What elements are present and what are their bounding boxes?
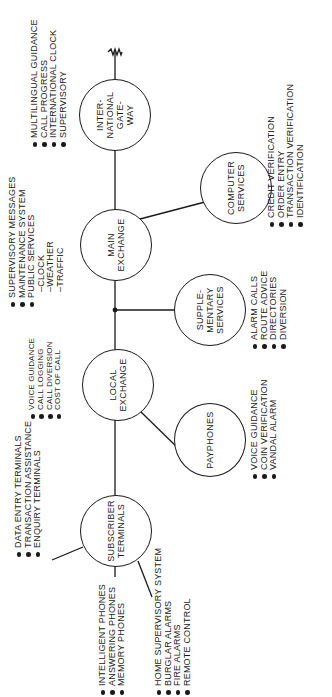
- node-international-gateway: INTER- NATIONAL GATE- WAY: [79, 79, 151, 151]
- node-computer-services: COMPUTER SERVICES: [200, 152, 272, 224]
- list-supplementary: ALARM CALLS ROUTE ADVICE DIRECTORIES DIV…: [250, 271, 288, 349]
- list-main-exchange: SUPERVISORY MESSAGES MAINTENANCE SYSTEM …: [8, 176, 66, 307]
- list-home-systems: HOME SUPERVISORY SYSTEM BURGLAR ALARMS F…: [154, 548, 192, 695]
- link-terminals: [52, 547, 83, 560]
- node-supplementary-services: SUPPLE- MENTARY SERVICES: [174, 274, 246, 346]
- list-item: MEMORY PHONES: [117, 584, 127, 695]
- list-item: SUPERVISORY: [59, 19, 69, 147]
- list-item: ENQUIRY TERMINALS: [33, 421, 43, 557]
- list-terminals: DATA ENTRY TERMINALS TRANSACTION ASSISTA…: [14, 421, 43, 557]
- node-local-exchange: LOCAL EXCHANGE: [82, 349, 154, 421]
- junction-dot: [113, 308, 118, 313]
- list-phones: INTELLIGENT PHONES ANSWERING PHONES MEMO…: [98, 584, 127, 695]
- list-international-gateway: MULTILINGUAL GUIDANCE CALL PROGRESS INTE…: [30, 19, 68, 147]
- list-item: COST OF CALL: [54, 338, 63, 419]
- list-computer-services: CREDIT VERIFICATION ORDER ENTRY TRANSACT…: [267, 84, 305, 227]
- list-item: IDENTIFICATION: [296, 84, 306, 227]
- node-payphones: PAYPHONES: [174, 403, 246, 477]
- list-payphones: VOICE GUIDANCE COIN VERIFICATION VANDAL …: [250, 379, 279, 479]
- list-item: DIVERSION: [279, 271, 289, 349]
- network-services-diagram: SUBSCRIBER TERMINALS LOCAL EXCHANGE PAYP…: [0, 0, 332, 697]
- node-main-exchange: MAIN EXCHANGE: [80, 209, 152, 281]
- link-home: [138, 561, 152, 597]
- list-item: VANDAL ALARM: [269, 379, 279, 479]
- list-local-exchange: VOICE GUIDANCE CALL LOGGING CALL DIVERSI…: [28, 338, 63, 419]
- link-computer: [140, 202, 205, 219]
- list-item: REMOTE CONTROL: [183, 548, 193, 695]
- node-subscriber-terminals: SUBSCRIBER TERMINALS: [80, 495, 152, 567]
- list-subitem: –TRAFFIC: [56, 176, 66, 307]
